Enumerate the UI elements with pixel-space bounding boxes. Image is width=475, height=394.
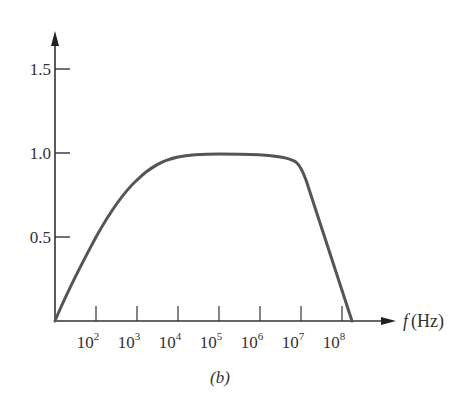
x-tick-label-1e8: 108	[323, 330, 346, 352]
y-tick-label-0.5: 0.5	[30, 228, 51, 247]
frequency-response-chart: 1.5 1.0 0.5 102 103 104 105 106 107 108 …	[0, 0, 475, 394]
response-curve	[55, 154, 352, 321]
x-tick-label-1e7: 107	[282, 330, 305, 352]
figure-caption: (b)	[210, 368, 230, 387]
y-axis-arrow-icon	[51, 31, 59, 46]
x-axis-label: f(Hz)	[403, 311, 444, 332]
y-tick-label-1.0: 1.0	[30, 144, 51, 163]
x-tick-label-1e2: 102	[77, 330, 100, 352]
y-tick-label-1.5: 1.5	[30, 60, 51, 79]
x-tick-label-1e6: 106	[241, 330, 264, 352]
x-tick-label-1e4: 104	[159, 330, 182, 352]
x-tick-label-1e5: 105	[200, 330, 223, 352]
x-ticks	[96, 306, 342, 321]
x-tick-label-1e3: 103	[118, 330, 141, 352]
x-axis-arrow-icon	[381, 317, 396, 325]
y-ticks	[55, 69, 70, 237]
